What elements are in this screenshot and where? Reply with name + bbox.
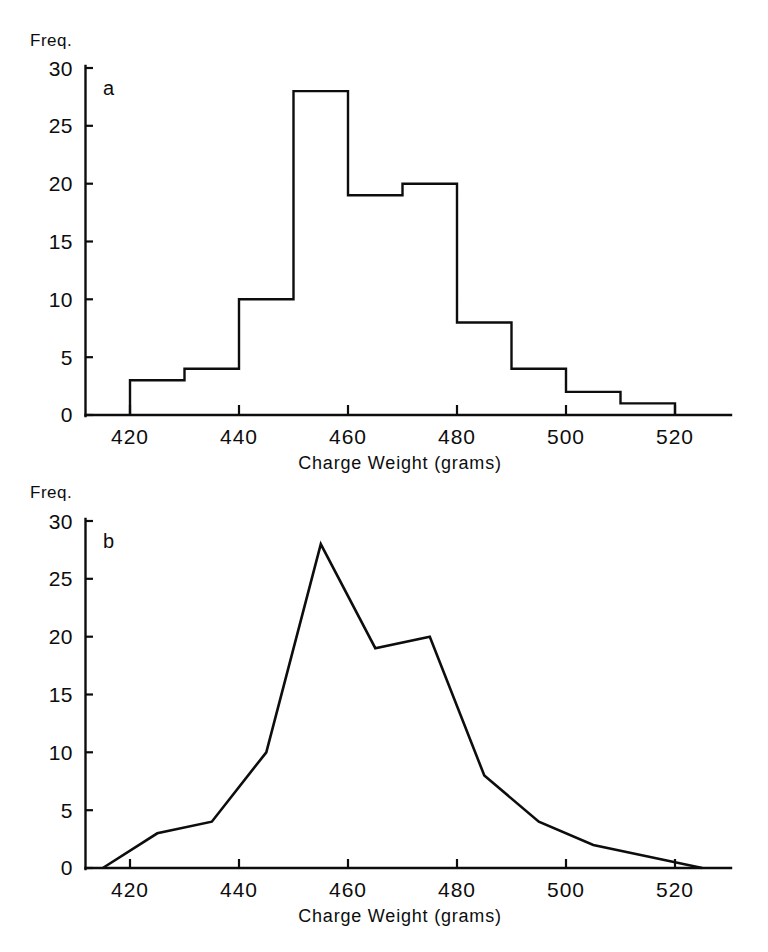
panel-b-letter: b <box>103 530 114 552</box>
panel-b-frequency-polygon-line <box>103 544 703 868</box>
panel-b-ytick-10: 10 <box>49 741 73 764</box>
panel-a-xtick-440: 440 <box>220 425 258 448</box>
panel-b-ytick-25: 25 <box>49 567 73 590</box>
panel-a-ytick-30: 30 <box>49 57 73 80</box>
panel-a-xtick-500: 500 <box>547 425 585 448</box>
panel-a-ytick-10: 10 <box>49 288 73 311</box>
panel-b-xtick-440: 440 <box>220 878 258 901</box>
panel-a-histogram-outline <box>130 91 675 415</box>
panel-a-xtick-420: 420 <box>111 425 149 448</box>
panel-b-ytick-20: 20 <box>49 625 73 648</box>
panel-a-letter: a <box>103 77 115 99</box>
panel-a-ytick-15: 15 <box>49 230 73 253</box>
panel-b-x-axis-title: Charge Weight (grams) <box>298 906 502 926</box>
panel-b-xtick-520: 520 <box>656 878 694 901</box>
panel-b-xtick-460: 460 <box>329 878 367 901</box>
panel-b-plot: Freq. b 0 5 10 15 20 25 30 <box>0 478 768 952</box>
panel-a-ytick-20: 20 <box>49 172 73 195</box>
panel-b-xtick-480: 480 <box>438 878 476 901</box>
panel-a-histogram: Freq. a 0 5 10 15 20 25 <box>0 0 768 478</box>
panel-b-ytick-30: 30 <box>49 510 73 533</box>
panel-a-xtick-520: 520 <box>656 425 694 448</box>
panel-a-xtick-460: 460 <box>329 425 367 448</box>
panel-b-x-ticks <box>130 859 675 868</box>
panel-a-y-axis-label: Freq. <box>30 31 72 50</box>
panel-a-ytick-0: 0 <box>61 403 73 426</box>
panel-a-x-axis-title: Charge Weight (grams) <box>298 453 502 473</box>
panel-a-x-ticks <box>130 405 675 415</box>
panel-b-ytick-0: 0 <box>61 856 73 879</box>
figure-histogram-and-polygon: Freq. a 0 5 10 15 20 25 <box>0 0 768 952</box>
panel-b-ytick-5: 5 <box>61 799 73 822</box>
panel-a-ytick-25: 25 <box>49 114 73 137</box>
panel-b-ytick-15: 15 <box>49 683 73 706</box>
panel-a-xtick-480: 480 <box>438 425 476 448</box>
panel-b-xtick-500: 500 <box>547 878 585 901</box>
panel-b-frequency-polygon: Freq. b 0 5 10 15 20 25 30 <box>0 478 768 952</box>
panel-a-plot: Freq. a 0 5 10 15 20 25 <box>0 0 768 478</box>
panel-a-ytick-5: 5 <box>61 346 73 369</box>
panel-b-y-axis-label: Freq. <box>30 483 72 502</box>
panel-b-xtick-420: 420 <box>111 878 149 901</box>
